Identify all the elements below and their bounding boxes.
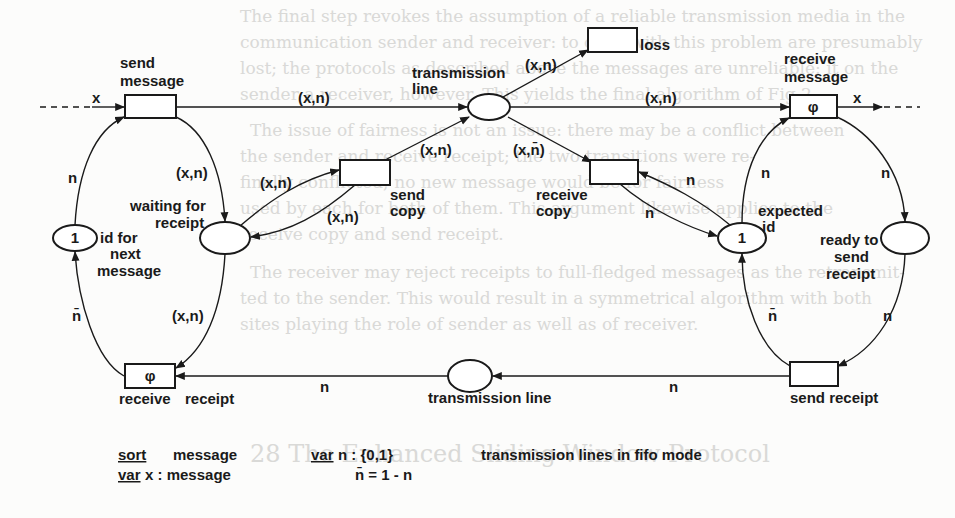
ghost-line: The receiver may reject receipts to full… <box>250 262 905 282</box>
place-transmission-line-top <box>468 94 510 120</box>
arc-label-sendcopy-to-line: (x,n) <box>420 141 452 158</box>
label-ready-to-send-receipt: ready to <box>820 231 878 248</box>
place-transmission-line-bottom <box>448 360 492 392</box>
arc-label-receipt-to-id: n̄ <box>72 307 81 324</box>
arc-label-sendreceipt-to-line: n <box>669 378 678 395</box>
legend-var-x-value: x : message <box>145 466 231 483</box>
ghost-line: The issue of fairness is not an issue: t… <box>250 120 845 140</box>
label-receive-message: message <box>784 68 848 85</box>
token-expected-id: 1 <box>738 229 746 246</box>
label-transmission-line-bottom: transmission line <box>428 389 551 406</box>
arc-label-in-x: x <box>92 89 101 106</box>
label-expected-id: id <box>762 218 775 235</box>
legend-var-x-keyword: var <box>118 466 141 483</box>
arc-label-receivecopy-from-expected: n <box>645 204 654 221</box>
arc-label-waiting-to-sendcopy: (x,n) <box>260 174 292 191</box>
label-waiting-for-receipt: receipt <box>155 214 204 231</box>
arc-label-sendreceipt-to-expected: n̄ <box>768 307 777 324</box>
arc-label-line-to-receive: (x,n) <box>645 89 677 106</box>
label-transmission-line-top: line <box>412 80 438 97</box>
ghost-line: communication sender and receiver: to co… <box>240 32 923 52</box>
label-ready-to-send-receipt: receipt <box>826 265 875 282</box>
label-waiting-for-receipt: waiting for <box>129 197 206 214</box>
arc-label-send-to-line: (x,n) <box>298 89 330 106</box>
label-ready-to-send-receipt: send <box>834 248 869 265</box>
arc-label-expected-to-receive: n <box>761 164 770 181</box>
diagram-page: The final step revokes the assumption of… <box>0 0 955 518</box>
arc-label-sendcopy-to-waiting: (x,n) <box>327 208 359 225</box>
arc-label-id-to-send: n <box>68 169 77 186</box>
transition-send-receipt <box>790 362 838 386</box>
label-id-for-next-message: next <box>110 245 141 262</box>
arc-label-line-to-receivecopy: (x,n̄) <box>513 141 545 158</box>
ghost-line: finally conflicted; no new message would… <box>240 172 724 192</box>
label-expected-id: expected <box>758 202 823 219</box>
arc-receive-to-ready <box>837 117 905 221</box>
label-id-for-next-message: message <box>97 262 161 279</box>
transition-send-message <box>125 95 176 118</box>
arc-label-receive-to-ready: n <box>881 164 890 181</box>
token-id-for-next-message: 1 <box>71 229 79 246</box>
transition-send-copy <box>340 160 390 185</box>
legend-var-n-value: n : {0,1} <box>338 446 393 463</box>
arc-label-line-to-receivereceipt: n <box>320 378 329 395</box>
transition-receive-copy <box>590 160 638 184</box>
legend-fifo-note: transmission lines in fifo mode <box>481 446 702 463</box>
place-waiting-for-receipt <box>200 222 250 254</box>
label-receive-message: receive <box>784 50 836 67</box>
label-transmission-line-top: transmission <box>412 64 505 81</box>
ghost-line: ted to the sender. This would result in … <box>240 288 872 308</box>
ghost-line: receive copy and send receipt. <box>240 224 504 244</box>
arc-id-to-send <box>75 117 124 225</box>
label-send-message: message <box>120 72 184 89</box>
legend-var-n-keyword: var <box>311 446 334 463</box>
label-send-copy: send <box>390 186 425 203</box>
petri-net-diagram: The final step revokes the assumption of… <box>0 0 955 518</box>
arc-label-ready-to-sendreceipt: n <box>883 307 892 324</box>
place-ready-to-send-receipt <box>881 222 929 254</box>
label-receive-copy: copy <box>536 202 572 219</box>
arc-label-line-to-loss: (x,n) <box>525 56 557 73</box>
label-receive-receipt: receive <box>119 390 171 407</box>
legend-sort-value: message <box>173 446 237 463</box>
ghost-line: sites playing the role of sender as well… <box>240 314 698 334</box>
inscription-receive-message: φ <box>808 98 819 115</box>
legend-sort-keyword: sort <box>118 446 146 463</box>
arc-label-waiting-to-receipt: (x,n) <box>172 307 204 324</box>
label-send-message: send <box>120 54 155 71</box>
ghost-line: the sender and receive receipt; the two … <box>240 146 755 166</box>
label-send-receipt: send receipt <box>790 389 878 406</box>
label-send-copy: copy <box>390 202 426 219</box>
ghost-line: The final step revokes the assumption of… <box>240 6 905 26</box>
legend-nbar-definition: n̄ = 1 - n <box>355 466 412 483</box>
label-id-for-next-message: id for <box>100 229 138 246</box>
label-receive-copy: receive <box>536 186 588 203</box>
arc-label-expected-to-receivecopy: n <box>686 171 695 188</box>
arc-label-out-x: x <box>853 89 862 106</box>
label-receive-receipt: receipt <box>185 390 234 407</box>
transition-loss <box>588 28 637 52</box>
label-loss: loss <box>640 36 670 53</box>
inscription-receive-receipt: φ <box>145 367 156 384</box>
arc-label-send-to-waiting: (x,n) <box>176 164 208 181</box>
